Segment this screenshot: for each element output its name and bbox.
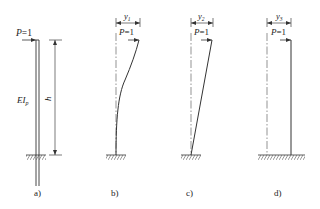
deflected-column-curve (116, 40, 139, 155)
load-label: P=1 (270, 27, 286, 37)
panel-d: P=1 y3 d) (258, 11, 305, 198)
structural-diagram: P=1 EIp h a) P=1 y1 b) P=1 y2 (0, 0, 320, 209)
caption-b: b) (111, 188, 119, 198)
load-label: P=1 (15, 28, 32, 38)
height-label: h (43, 96, 53, 101)
deflection-label: y1 (123, 11, 131, 22)
load-label: P=1 (193, 27, 209, 37)
panel-b: P=1 y1 b) (106, 11, 140, 198)
caption-a: a) (34, 188, 41, 198)
ground-hatch (258, 155, 305, 160)
ground-hatch (106, 155, 126, 160)
caption-c: c) (186, 188, 193, 198)
deflection-label: y2 (197, 11, 205, 22)
rotated-column-line (191, 40, 212, 155)
stiffness-label: EIp (16, 95, 29, 106)
load-label: P=1 (118, 27, 134, 37)
panel-a: P=1 EIp h a) (15, 28, 62, 198)
ground-hatch (181, 155, 201, 160)
caption-d: d) (274, 188, 282, 198)
deflection-label: y3 (275, 11, 283, 22)
ground-hatch (26, 155, 46, 160)
panel-c: P=1 y2 c) (181, 11, 213, 198)
